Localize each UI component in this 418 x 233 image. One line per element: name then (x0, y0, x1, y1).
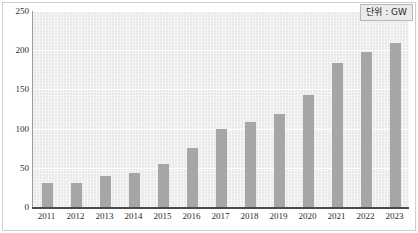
bar (332, 63, 343, 207)
x-axis-tick-label: 2023 (379, 211, 411, 222)
x-axis-tick-label: 2013 (89, 211, 121, 222)
x-axis-tick-label: 2018 (234, 211, 266, 222)
bar (187, 148, 198, 207)
bar-slot (149, 11, 178, 207)
bar (274, 114, 285, 207)
bar (129, 173, 140, 207)
x-axis-tick-label: 2016 (176, 211, 208, 222)
bar (71, 183, 82, 207)
y-axis-tick-label: 50 (1, 164, 29, 173)
bar-slot (178, 11, 207, 207)
bar-slot (265, 11, 294, 207)
bar-slot (91, 11, 120, 207)
x-axis-tick-label: 2020 (292, 211, 324, 222)
x-axis: 2011201220132014201520162017201820192020… (32, 209, 409, 227)
y-axis-tick-label: 150 (1, 85, 29, 94)
x-axis-tick-label: 2017 (205, 211, 237, 222)
bar (390, 43, 401, 207)
bar-slot (236, 11, 265, 207)
x-axis-tick-label: 2021 (321, 211, 353, 222)
unit-legend-label: 단위 : GW (360, 4, 413, 21)
bar (303, 95, 314, 207)
x-axis-tick-label: 2011 (31, 211, 63, 222)
bar-chart-figure: 050100150200250 201120122013201420152016… (0, 0, 418, 233)
bar-slot (381, 11, 409, 207)
bar-slot (62, 11, 91, 207)
bar-slot (120, 11, 149, 207)
bar-slot (33, 11, 62, 207)
bar (245, 122, 256, 207)
bar (158, 164, 169, 207)
bar-slot (323, 11, 352, 207)
bar (100, 176, 111, 207)
x-axis-tick-label: 2019 (263, 211, 295, 222)
bar (42, 183, 53, 207)
y-axis-tick-label: 100 (1, 125, 29, 134)
y-axis: 050100150200250 (0, 0, 29, 233)
bar-slot (207, 11, 236, 207)
bar (361, 52, 372, 207)
x-axis-tick-label: 2014 (118, 211, 150, 222)
x-axis-tick-label: 2012 (60, 211, 92, 222)
bars-layer (33, 11, 409, 207)
y-axis-tick-label: 200 (1, 46, 29, 55)
bar-slot (352, 11, 381, 207)
plot-area (32, 11, 409, 207)
y-axis-tick-label: 0 (1, 203, 29, 212)
bar (216, 129, 227, 207)
y-axis-tick-label: 250 (1, 7, 29, 16)
x-axis-tick-label: 2015 (147, 211, 179, 222)
x-axis-tick-label: 2022 (350, 211, 382, 222)
bar-slot (294, 11, 323, 207)
